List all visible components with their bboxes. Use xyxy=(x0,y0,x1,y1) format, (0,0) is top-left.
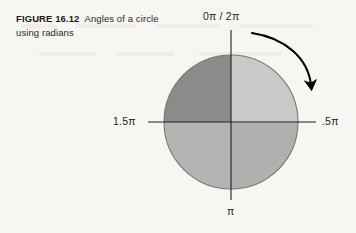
angle-label-top: 0π / 2π xyxy=(203,10,239,22)
angle-label-bottom: π xyxy=(227,205,234,217)
angle-label-left: 1.5π xyxy=(113,115,136,127)
figure-page: FIGURE 16.12 Angles of a circle using ra… xyxy=(0,0,356,233)
angle-label-right: .5π xyxy=(322,115,339,127)
radian-circle-diagram xyxy=(0,0,356,233)
